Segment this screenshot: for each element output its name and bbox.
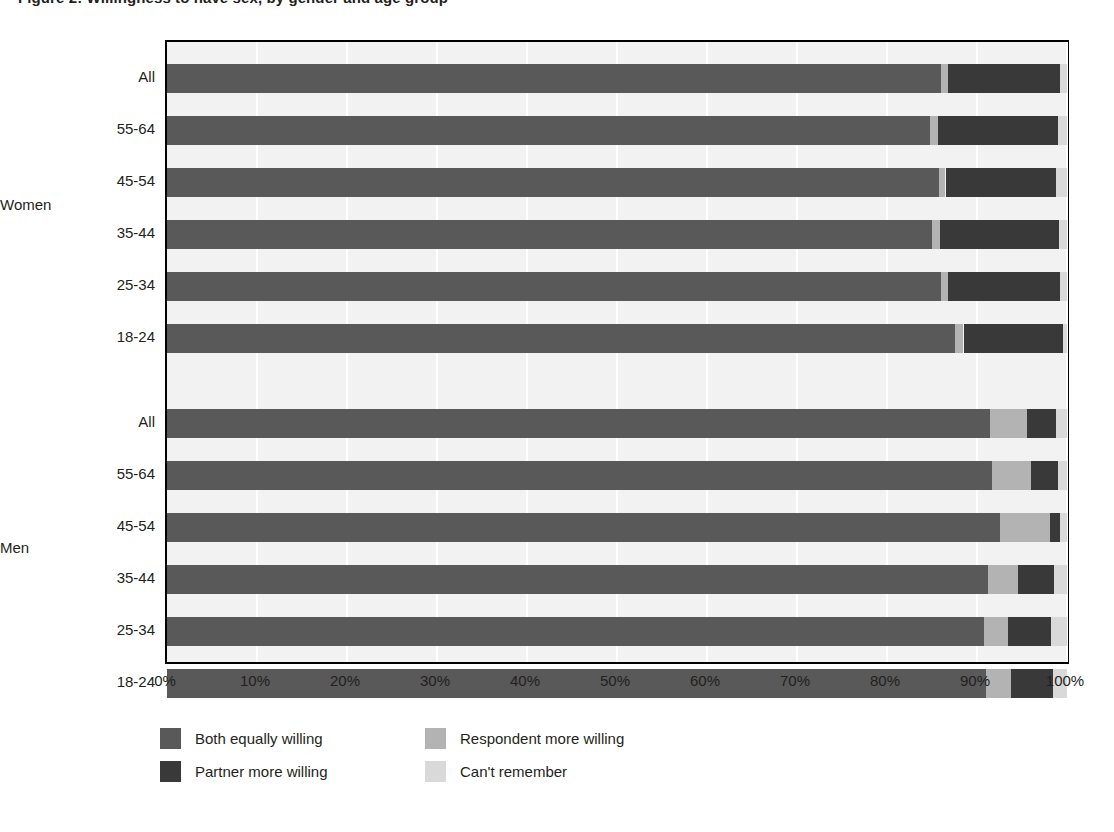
bar-segment-respondent xyxy=(988,565,1019,594)
y-axis-tick-men-25-34: 25-34 xyxy=(15,622,155,637)
legend-label-partner: Partner more willing xyxy=(195,763,328,780)
bar-row xyxy=(167,565,1067,594)
page-title: Figure 2: Willingness to have sex, by ge… xyxy=(18,0,448,6)
bar-segment-respondent xyxy=(930,116,938,145)
x-axis-tick-20: 20% xyxy=(330,672,360,689)
legend-label-respondent: Respondent more willing xyxy=(460,730,624,747)
legend-column-right: Respondent more willingCan't remember xyxy=(425,722,624,788)
x-axis-tick-60: 60% xyxy=(690,672,720,689)
bar-segment-respondent xyxy=(984,617,1007,646)
bar-row xyxy=(167,220,1067,249)
bar-segment-both xyxy=(167,168,939,197)
y-axis-tick-men-18-24: 18-24 xyxy=(15,674,155,689)
bar-segment-cant xyxy=(1054,565,1067,594)
x-axis-labels: 0%10%20%30%40%50%60%70%80%90%100% xyxy=(165,672,1065,694)
x-axis-tick-30: 30% xyxy=(420,672,450,689)
x-axis-tick-90: 90% xyxy=(960,672,990,689)
bar-segment-cant xyxy=(1060,513,1067,542)
bar-segment-both xyxy=(167,513,1000,542)
bar-row xyxy=(167,409,1067,438)
y-axis-tick-women-18-24: 18-24 xyxy=(15,329,155,344)
bar-segment-both xyxy=(167,409,990,438)
y-axis-tick-men-All: All xyxy=(15,414,155,429)
group-label-men: Men xyxy=(0,540,80,555)
x-axis-tick-0: 0% xyxy=(154,672,176,689)
bar-segment-partner xyxy=(940,220,1059,249)
bar-segment-cant xyxy=(1051,617,1067,646)
bar-segment-cant xyxy=(1060,272,1067,301)
bar-row xyxy=(167,116,1067,145)
legend-item-both[interactable]: Both equally willing xyxy=(160,722,328,755)
bar-segment-partner xyxy=(964,324,1063,353)
bar-segment-cant xyxy=(1058,116,1067,145)
x-axis-tick-80: 80% xyxy=(870,672,900,689)
bars-layer xyxy=(167,42,1067,662)
bar-row xyxy=(167,461,1067,490)
legend-label-cant: Can't remember xyxy=(460,763,567,780)
x-axis-tick-70: 70% xyxy=(780,672,810,689)
x-axis-tick-50: 50% xyxy=(600,672,630,689)
y-axis-tick-women-55-64: 55-64 xyxy=(15,121,155,136)
bar-segment-partner xyxy=(1027,409,1056,438)
bar-segment-respondent xyxy=(992,461,1031,490)
x-axis-tick-100: 100% xyxy=(1046,672,1084,689)
legend-swatch-cant xyxy=(425,761,446,782)
bar-segment-respondent xyxy=(941,272,948,301)
bar-segment-respondent xyxy=(990,409,1028,438)
bar-segment-cant xyxy=(1056,168,1067,197)
y-axis-tick-men-45-54: 45-54 xyxy=(15,518,155,533)
legend-item-cant[interactable]: Can't remember xyxy=(425,755,624,788)
bar-segment-both xyxy=(167,64,941,93)
bar-segment-partner xyxy=(946,168,1057,197)
bar-segment-cant xyxy=(1059,220,1067,249)
legend-column-left: Both equally willingPartner more willing xyxy=(160,722,328,788)
x-axis-tick-40: 40% xyxy=(510,672,540,689)
bar-segment-partner xyxy=(948,64,1060,93)
bar-row xyxy=(167,617,1067,646)
bar-segment-both xyxy=(167,324,955,353)
bar-row xyxy=(167,513,1067,542)
x-axis-tick-10: 10% xyxy=(240,672,270,689)
bar-segment-both xyxy=(167,272,941,301)
bar-segment-cant xyxy=(1056,409,1067,438)
y-axis-tick-women-All: All xyxy=(15,69,155,84)
bar-segment-both xyxy=(167,116,930,145)
bar-row xyxy=(167,64,1067,93)
bar-row xyxy=(167,324,1067,353)
bar-segment-respondent xyxy=(955,324,963,353)
y-axis-tick-women-25-34: 25-34 xyxy=(15,277,155,292)
bar-segment-both xyxy=(167,565,988,594)
legend-swatch-partner xyxy=(160,761,181,782)
legend-item-partner[interactable]: Partner more willing xyxy=(160,755,328,788)
bar-segment-both xyxy=(167,461,992,490)
y-axis-tick-men-55-64: 55-64 xyxy=(15,466,155,481)
bar-segment-partner xyxy=(948,272,1060,301)
y-axis-tick-women-45-54: 45-54 xyxy=(15,173,155,188)
bar-row xyxy=(167,272,1067,301)
legend-item-respondent[interactable]: Respondent more willing xyxy=(425,722,624,755)
bar-segment-respondent xyxy=(1000,513,1050,542)
chart-plot-area xyxy=(165,40,1069,664)
bar-segment-both xyxy=(167,220,932,249)
y-axis-tick-women-35-44: 35-44 xyxy=(15,225,155,240)
y-axis-tick-men-35-44: 35-44 xyxy=(15,570,155,585)
legend-label-both: Both equally willing xyxy=(195,730,323,747)
bar-segment-partner xyxy=(1050,513,1060,542)
bar-row xyxy=(167,168,1067,197)
bar-segment-both xyxy=(167,617,984,646)
y-axis-labels: All55-6445-5435-4425-3418-24All55-6445-5… xyxy=(0,40,155,660)
bar-segment-cant xyxy=(1058,461,1067,490)
bar-segment-partner xyxy=(938,116,1058,145)
group-label-women: Women xyxy=(0,197,80,212)
bar-segment-respondent xyxy=(941,64,948,93)
bar-segment-partner xyxy=(1031,461,1058,490)
bar-segment-cant xyxy=(1063,324,1068,353)
legend-swatch-both xyxy=(160,728,181,749)
legend-swatch-respondent xyxy=(425,728,446,749)
bar-segment-cant xyxy=(1060,64,1067,93)
bar-segment-partner xyxy=(1018,565,1054,594)
bar-segment-respondent xyxy=(932,220,940,249)
bar-segment-partner xyxy=(1008,617,1051,646)
